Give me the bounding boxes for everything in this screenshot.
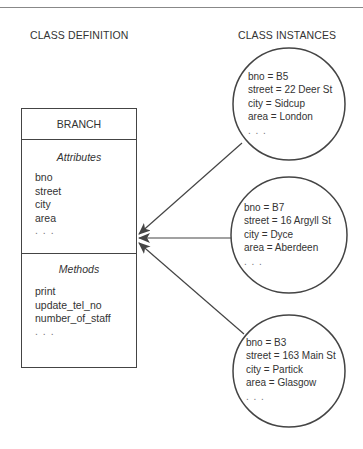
attribute-item: city (35, 198, 51, 212)
instance-line: bno = B5 (248, 70, 332, 83)
arrow-b3-to-class (139, 243, 244, 334)
instance-ellipsis: . . . (244, 255, 331, 268)
instance-line: bno = B3 (246, 336, 336, 349)
instance-text-b5: bno = B5 street = 22 Deer St city = Sidc… (248, 70, 332, 137)
methods-title: Methods (22, 263, 136, 275)
instance-line: bno = B7 (244, 201, 331, 214)
class-name: BRANCH (22, 109, 136, 140)
instance-line: area = Aberdeen (244, 241, 331, 254)
instance-ellipsis: . . . (246, 390, 336, 403)
class-box-branch: BRANCH Attributes bno street city area .… (21, 108, 137, 368)
instance-line: street = 16 Argyll St (244, 214, 331, 227)
instance-line: street = 22 Deer St (248, 83, 332, 96)
instance-text-b7: bno = B7 street = 16 Argyll St city = Dy… (244, 201, 331, 268)
instance-text-b3: bno = B3 street = 163 Main St city = Par… (246, 336, 336, 403)
instance-ellipsis: . . . (248, 124, 332, 137)
instance-line: city = Sidcup (248, 97, 332, 110)
method-item: number_of_staff (35, 312, 111, 326)
instance-line: city = Partick (246, 363, 336, 376)
attributes-section: Attributes bno street city area . . . (22, 140, 136, 254)
method-ellipsis: . . . (35, 325, 55, 339)
arrow-b5-to-class (139, 143, 242, 234)
attribute-ellipsis: . . . (35, 224, 55, 238)
method-item: print (35, 285, 55, 299)
instance-line: street = 163 Main St (246, 349, 336, 362)
instance-line: city = Dyce (244, 228, 331, 241)
methods-section: Methods print update_tel_no number_of_st… (22, 254, 136, 367)
attribute-item: area (35, 212, 56, 226)
instance-line: area = London (248, 110, 332, 123)
attributes-title: Attributes (22, 151, 136, 163)
attribute-item: bno (35, 171, 53, 185)
instance-line: area = Glasgow (246, 376, 336, 389)
method-item: update_tel_no (35, 299, 102, 313)
attribute-item: street (35, 185, 61, 199)
